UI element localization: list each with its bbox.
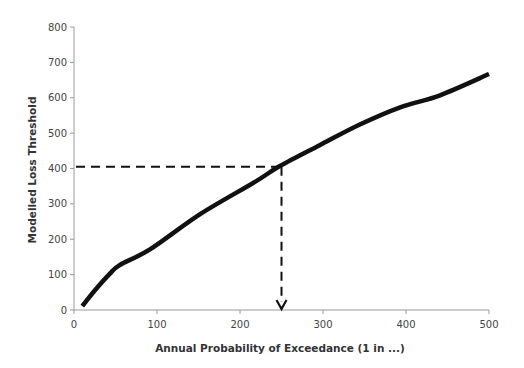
x-tick-label: 100 — [147, 319, 166, 330]
loss-exceedance-chart: 0100200300400500600700800 01002003004005… — [0, 0, 524, 368]
y-tick-label: 400 — [48, 163, 67, 174]
x-axis-title: Annual Probability of Exceedance (1 in .… — [155, 342, 405, 354]
y-tick-label: 700 — [48, 57, 67, 68]
y-tick-label: 500 — [48, 128, 67, 139]
y-axis-ticks: 0100200300400500600700800 — [48, 22, 74, 316]
x-tick-label: 400 — [396, 319, 415, 330]
x-axis-ticks: 0100200300400500 — [71, 310, 499, 330]
annotations — [76, 167, 287, 309]
x-tick-label: 200 — [230, 319, 249, 330]
x-tick-label: 300 — [313, 319, 332, 330]
y-tick-label: 0 — [61, 305, 67, 316]
loss-curve-line — [82, 74, 489, 306]
y-tick-label: 100 — [48, 269, 67, 280]
y-tick-label: 600 — [48, 92, 67, 103]
x-tick-label: 0 — [71, 319, 77, 330]
y-axis-title: Modelled Loss Threshold — [26, 97, 38, 244]
arrow-head-icon — [277, 300, 287, 309]
data-series — [82, 74, 489, 306]
y-tick-label: 300 — [48, 198, 67, 209]
y-tick-label: 800 — [48, 22, 67, 33]
y-tick-label: 200 — [48, 234, 67, 245]
x-tick-label: 500 — [479, 319, 498, 330]
